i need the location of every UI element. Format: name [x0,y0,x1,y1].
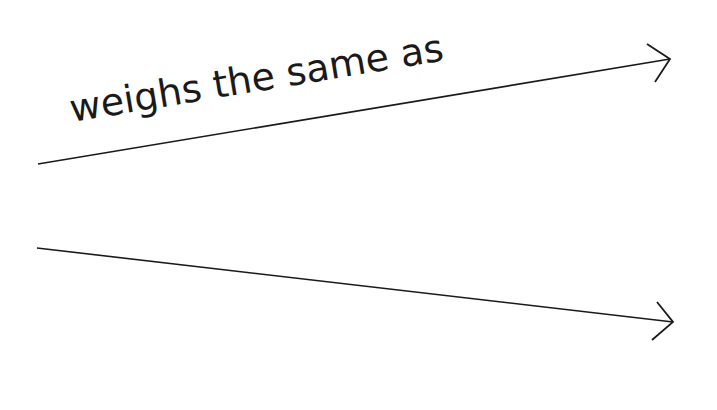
diagram-canvas: weighs the same as [0,0,717,410]
upper-arrow: weighs the same as [38,26,670,164]
lower-arrow [37,248,673,340]
upper-arrow-label: weighs the same as [66,26,446,131]
lower-arrow-shaft [37,248,673,322]
diagram-svg: weighs the same as [0,0,717,410]
